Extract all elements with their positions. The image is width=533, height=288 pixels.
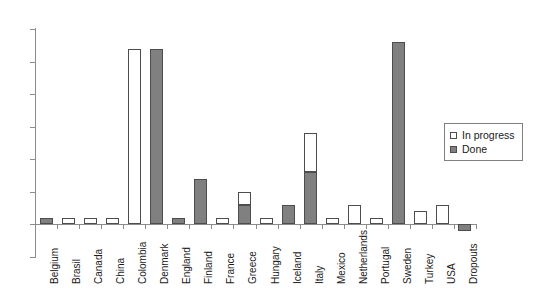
bar-segment-done-greece bbox=[238, 205, 251, 225]
legend-item-label: Done bbox=[462, 143, 487, 155]
x-label-greece: Greece bbox=[248, 251, 258, 284]
bar-segment-in-progress-france bbox=[216, 218, 229, 225]
x-label-sweden: Sweden bbox=[403, 248, 413, 284]
bar-segment-in-progress-china bbox=[106, 218, 119, 225]
bar-segment-done-italy bbox=[304, 172, 317, 224]
x-label-france: France bbox=[226, 253, 236, 284]
x-label-iceland: Iceland bbox=[293, 252, 303, 284]
bar-segment-done-iceland bbox=[282, 205, 295, 225]
bar-segment-done-belgium bbox=[40, 218, 53, 225]
bar-chart: -5051015202530 BelgiumBrasilCanadaChinaC… bbox=[0, 0, 533, 288]
legend-swatch-icon bbox=[450, 132, 457, 139]
x-label-brasil: Brasil bbox=[72, 259, 82, 284]
x-label-hungary: Hungary bbox=[271, 246, 281, 284]
x-label-finland: Finland bbox=[204, 251, 214, 284]
x-label-canada: Canada bbox=[94, 249, 104, 284]
x-label-portugal: Portugal bbox=[381, 247, 391, 284]
x-label-dropouts: Dropouts bbox=[469, 243, 479, 284]
bar-segment-in-progress-hungary bbox=[260, 218, 273, 225]
x-label-china: China bbox=[116, 258, 126, 284]
legend-swatch-icon bbox=[450, 146, 457, 153]
bar-segment-done-england bbox=[172, 218, 185, 225]
bar-segment-in-progress-italy bbox=[304, 133, 317, 172]
bar-segment-in-progress-usa bbox=[436, 205, 449, 225]
bar-segment-in-progress-portugal bbox=[370, 218, 383, 225]
x-label-colombia: Colombia bbox=[138, 242, 148, 284]
bar-segment-in-progress-canada bbox=[84, 218, 97, 225]
legend-item-label: In progress bbox=[462, 129, 515, 141]
x-label-netherlands: Netherlands bbox=[359, 230, 369, 284]
x-label-mexico: Mexico bbox=[337, 252, 347, 284]
bar-segment-in-progress-colombia bbox=[128, 49, 141, 225]
bar-segment-done-sweden bbox=[392, 42, 405, 224]
bar-segment-in-progress-mexico bbox=[326, 218, 339, 225]
bar-segment-in-progress-brasil bbox=[62, 218, 75, 225]
x-label-turkey: Turkey bbox=[425, 254, 435, 284]
x-label-england: England bbox=[182, 247, 192, 284]
bar-segment-done-dropouts bbox=[458, 224, 471, 231]
legend-item-done: Done bbox=[450, 142, 515, 156]
bar-segment-done-denmark bbox=[150, 49, 163, 225]
legend-item-prog: In progress bbox=[450, 128, 515, 142]
legend: In progressDone bbox=[444, 123, 523, 161]
bar-segment-in-progress-greece bbox=[238, 192, 251, 205]
x-label-denmark: Denmark bbox=[160, 243, 170, 284]
x-label-belgium: Belgium bbox=[50, 248, 60, 284]
x-label-usa: USA bbox=[447, 263, 457, 284]
bar-segment-in-progress-turkey bbox=[414, 211, 427, 224]
bar-segment-in-progress-netherlands bbox=[348, 205, 361, 225]
bar-segment-done-finland bbox=[194, 179, 207, 225]
x-label-italy: Italy bbox=[315, 266, 325, 284]
